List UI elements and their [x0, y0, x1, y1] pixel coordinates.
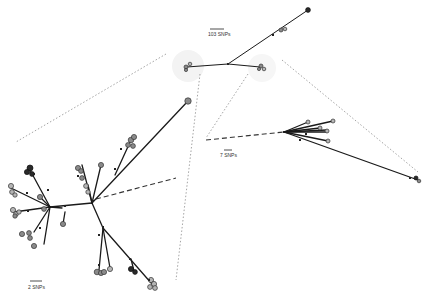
phylogeny-figure: 103 SNPs — [0, 0, 426, 297]
right-cluster-tree: 7 SNPs — [220, 119, 421, 183]
left-cluster-tree: 2 SNPs — [8, 98, 191, 291]
scale-label-7: 7 SNPs — [220, 152, 237, 158]
scale-label-2: 2 SNPs — [28, 284, 45, 290]
dashed-link-left — [96, 178, 176, 199]
dashed-link-right — [206, 132, 284, 140]
scale-label-103: 103 SNPs — [208, 31, 231, 37]
